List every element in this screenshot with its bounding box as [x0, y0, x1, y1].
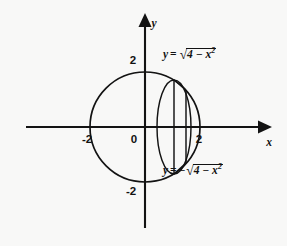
y-tick-label-neg2: -2	[126, 185, 136, 197]
x-tick-label-2: 2	[196, 133, 202, 145]
upper-eq-radicand-base: 4 − x	[187, 48, 211, 60]
x-tick-label-neg2: -2	[82, 133, 92, 145]
upper-eq-lhs: y	[163, 48, 168, 60]
lower-eq-radicand-base: 4 − x	[194, 164, 218, 176]
upper-equation-label: y=√4 − x2	[163, 47, 216, 61]
lower-eq-lhs: y	[163, 164, 168, 176]
upper-eq-radicand: 4 − x2	[186, 48, 216, 61]
lower-eq-equals: =	[170, 164, 177, 176]
lower-eq-radicand: 4 − x2	[193, 164, 223, 177]
coordinate-plot: -2 0 2 2 -2 y x	[0, 0, 287, 246]
upper-eq-radicand-exponent: 2	[211, 46, 215, 55]
figure-root: -2 0 2 2 -2 y x y=√4 − x2 y=−√4 − x2	[0, 0, 287, 246]
lower-equation-label: y=−√4 − x2	[163, 163, 223, 177]
upper-eq-radical: √4 − x2	[179, 47, 217, 61]
y-tick-label-2: 2	[130, 54, 136, 66]
x-axis-arrowhead	[258, 121, 272, 134]
x-axis-label: x	[265, 136, 272, 148]
y-axis-arrowhead	[139, 13, 152, 27]
lower-eq-radicand-exponent: 2	[218, 162, 222, 171]
y-axis-label: y	[149, 17, 157, 30]
x-tick-label-0: 0	[131, 133, 137, 145]
lower-eq-radical: √4 − x2	[185, 163, 223, 177]
upper-eq-equals: =	[170, 48, 177, 60]
slab-top-edge	[174, 80, 186, 90]
